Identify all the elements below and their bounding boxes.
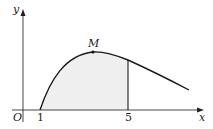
function-graph: M y x O 1 5 xyxy=(0,0,213,129)
y-axis-label: y xyxy=(12,3,20,16)
x-axis-label: x xyxy=(199,111,206,124)
tick-label-1: 1 xyxy=(37,111,44,124)
y-axis-arrow-icon xyxy=(21,9,26,16)
point-m-dot xyxy=(91,50,94,53)
origin-label: O xyxy=(13,111,22,124)
tick-label-5: 5 xyxy=(125,111,132,124)
point-m-label: M xyxy=(87,37,100,50)
